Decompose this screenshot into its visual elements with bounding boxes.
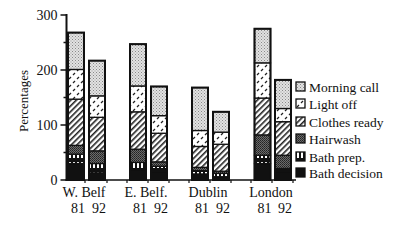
legend-swatch: [296, 134, 305, 143]
legend-item-light-off: Light off: [296, 97, 358, 112]
y-tick-label: 300: [37, 8, 58, 23]
segment-bath-prep-: [89, 164, 105, 173]
category-labels: W. Belf8192E. Belf.8192Dublin8192London8…: [62, 185, 292, 216]
legend-swatch: [296, 168, 305, 177]
segment-morning-call: [130, 44, 146, 86]
bar-w-belf-92: [89, 61, 105, 180]
legend-swatch: [296, 152, 305, 161]
legend-item-bath-decision: Bath decision: [296, 166, 383, 181]
segment-morning-call: [275, 80, 291, 109]
segment-light-off: [68, 69, 84, 99]
segment-clothes-ready: [192, 146, 208, 167]
year-label: 81: [195, 201, 209, 216]
legend-item-morning-call: Morning call: [296, 80, 379, 95]
legend-label: Hairwash: [309, 132, 361, 147]
group-label: Dublin: [189, 185, 228, 200]
legend-label: Morning call: [309, 80, 379, 95]
year-label: 81: [258, 201, 272, 216]
year-label: 92: [154, 201, 168, 216]
legend-item-clothes-ready: Clothes ready: [296, 115, 384, 130]
y-axis-label: Percentages: [16, 70, 31, 132]
segment-morning-call: [255, 29, 271, 63]
segment-bath-prep-: [151, 166, 167, 172]
segment-light-off: [213, 132, 229, 144]
segment-light-off: [192, 131, 208, 147]
segment-light-off: [151, 116, 167, 134]
stacked-bar-chart: Percentages 0100200300 W. Belf8192E. Bel…: [0, 0, 395, 228]
segment-clothes-ready: [89, 117, 105, 151]
segment-light-off: [275, 109, 291, 122]
segment-hairwash: [275, 155, 291, 168]
y-tick-label: 100: [37, 118, 58, 133]
bar-e-belf-81: [130, 44, 146, 180]
bars: [68, 29, 291, 180]
segment-bath-decision: [255, 164, 271, 181]
legend-label: Light off: [309, 97, 358, 112]
segment-hairwash: [68, 145, 84, 154]
segment-clothes-ready: [68, 99, 84, 145]
segment-morning-call: [68, 33, 84, 70]
y-tick-label: 0: [51, 173, 58, 188]
bar-london-81: [255, 29, 271, 180]
legend-swatch: [296, 117, 305, 126]
legend-label: Bath decision: [309, 166, 383, 181]
legend-swatch: [296, 82, 305, 91]
segment-hairwash: [255, 135, 271, 155]
segment-light-off: [130, 86, 146, 112]
legend-label: Clothes ready: [309, 115, 384, 130]
year-label: 92: [216, 201, 230, 216]
legend-item-hairwash: Hairwash: [296, 132, 361, 147]
segment-bath-decision: [151, 172, 167, 180]
segment-clothes-ready: [255, 98, 271, 135]
bar-dublin-81: [192, 88, 208, 180]
legend: Morning callLight offClothes readyHairwa…: [296, 80, 384, 181]
segment-bath-decision: [275, 172, 291, 180]
year-label: 92: [278, 201, 292, 216]
segment-morning-call: [89, 61, 105, 96]
segment-bath-prep-: [68, 154, 84, 163]
segment-bath-decision: [68, 164, 84, 181]
group-label: W. Belf: [62, 185, 105, 200]
bar-dublin-92: [213, 112, 229, 180]
legend-swatch: [296, 99, 305, 108]
segment-clothes-ready: [275, 122, 291, 156]
segment-morning-call: [192, 88, 208, 131]
segment-morning-call: [151, 87, 167, 116]
legend-label: Bath prep.: [309, 150, 365, 165]
segment-bath-decision: [89, 173, 105, 180]
segment-bath-decision: [130, 170, 146, 180]
segment-morning-call: [213, 112, 229, 132]
bar-e-belf-92: [151, 87, 167, 181]
segment-light-off: [255, 63, 271, 98]
bar-london-92: [275, 80, 291, 180]
segment-bath-prep-: [130, 162, 146, 169]
segment-clothes-ready: [130, 112, 146, 149]
segment-clothes-ready: [213, 144, 229, 171]
segment-hairwash: [151, 162, 167, 166]
segment-hairwash: [89, 151, 105, 164]
group-label: E. Belf.: [124, 185, 167, 200]
year-label: 92: [92, 201, 106, 216]
legend-item-bath-prep-: Bath prep.: [296, 150, 365, 165]
y-tick-label: 200: [37, 63, 58, 78]
segment-clothes-ready: [151, 133, 167, 162]
segment-bath-prep-: [255, 155, 271, 163]
segment-light-off: [89, 96, 105, 117]
year-label: 81: [133, 201, 147, 216]
segment-hairwash: [130, 149, 146, 162]
year-label: 81: [71, 201, 85, 216]
group-label: London: [249, 185, 293, 200]
bar-w-belf-81: [68, 33, 84, 180]
